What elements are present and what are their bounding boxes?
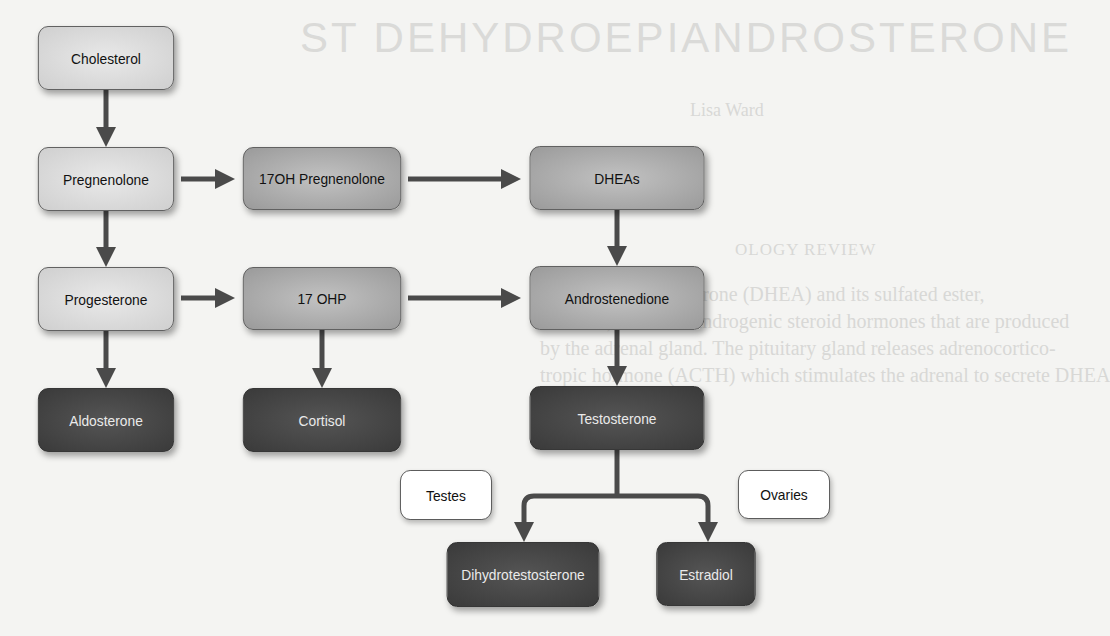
node-17oh-pregnenolone: 17OH Pregnenolone <box>243 147 401 210</box>
arrow-testosterone-estradiol <box>617 496 708 533</box>
node-aldosterone: Aldosterone <box>38 388 174 452</box>
node-17ohp: 17 OHP <box>243 267 401 330</box>
node-cholesterol: Cholesterol <box>38 26 174 90</box>
node-dheas: DHEAs <box>530 146 705 210</box>
node-androstenedione: Androstenedione <box>530 266 705 330</box>
node-estradiol: Estradiol <box>656 542 755 606</box>
node-testosterone: Testosterone <box>530 386 705 450</box>
arrow-testosterone-dihydrotestosterone <box>524 496 617 533</box>
node-pregnenolone: Pregnenolone <box>38 147 174 211</box>
node-progesterone: Progesterone <box>38 267 174 331</box>
label-testes: Testes <box>400 470 492 520</box>
node-dihydrotestosterone: Dihydrotestosterone <box>447 542 600 607</box>
label-ovaries: Ovaries <box>738 470 830 519</box>
node-cortisol: Cortisol <box>243 388 401 452</box>
